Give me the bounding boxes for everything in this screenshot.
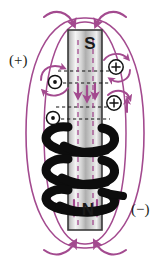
current-out-of-page-symbol <box>48 75 61 88</box>
south-pole-label: S <box>80 34 100 54</box>
electromagnet-diagram: (+) (−) S N <box>0 0 165 266</box>
current-out-of-page-symbol <box>46 111 59 124</box>
negative-terminal-label: (−) <box>131 201 149 218</box>
north-pole-label: N <box>78 200 98 220</box>
current-into-page-symbol <box>107 96 121 110</box>
current-into-page-symbol <box>109 60 123 74</box>
positive-terminal-label: (+) <box>9 52 27 69</box>
